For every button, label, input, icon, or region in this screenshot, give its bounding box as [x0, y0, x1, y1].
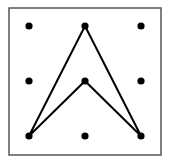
peg-dot-r0-c2	[137, 22, 144, 29]
peg-dot-r2-c1	[81, 132, 88, 139]
peg-dot-r2-c0	[25, 132, 32, 139]
peg-dot-r1-c2	[137, 77, 144, 84]
peg-dot-r0-c1	[81, 22, 88, 29]
peg-dot-r0-c0	[25, 22, 32, 29]
peg-dot-r1-c1	[81, 77, 88, 84]
peg-dot-r2-c2	[137, 132, 144, 139]
peg-dot-r1-c0	[25, 77, 32, 84]
geoboard-diagram	[0, 0, 172, 166]
